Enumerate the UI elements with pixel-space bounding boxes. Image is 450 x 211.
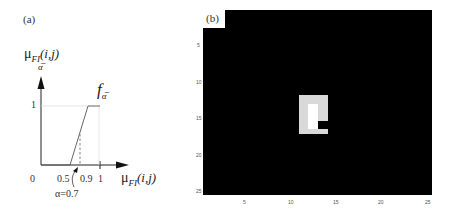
x-axis-label: μFI(i,j) xyxy=(121,168,156,188)
img-y-tick-15: 15 xyxy=(196,115,202,121)
img-y-tick-10: 10 xyxy=(196,79,202,85)
alpha-annotation: α=0.7 xyxy=(55,188,78,199)
img-y-tick-25: 25 xyxy=(196,188,202,194)
x-tick-label-05: 0.5 xyxy=(57,173,70,184)
curve-label: fα̅ xyxy=(97,80,106,101)
img-x-tick-5: 5 xyxy=(243,199,246,205)
x-tick-label-0: 0 xyxy=(30,173,35,184)
img-y-tick-5: 5 xyxy=(197,42,200,48)
x-tick-label-1: 1 xyxy=(98,173,103,184)
image-panel xyxy=(203,10,432,195)
img-x-tick-25: 25 xyxy=(425,199,431,205)
black-notch xyxy=(318,121,328,129)
y-tick-label-1: 1 xyxy=(31,99,36,110)
alpha-annotation-arrow xyxy=(72,170,76,187)
panel-b-label: (b) xyxy=(206,12,219,24)
x-tick-label-09: 0.9 xyxy=(80,173,93,184)
img-x-tick-10: 10 xyxy=(288,199,294,205)
img-x-tick-15: 15 xyxy=(333,199,339,205)
curve-f-alpha xyxy=(41,106,100,165)
white-region xyxy=(308,104,318,129)
y-axis-arrow-icon xyxy=(38,76,45,89)
alpha-arrowhead-icon xyxy=(73,167,78,173)
img-x-tick-20: 20 xyxy=(378,199,384,205)
img-y-tick-20: 20 xyxy=(196,152,202,158)
